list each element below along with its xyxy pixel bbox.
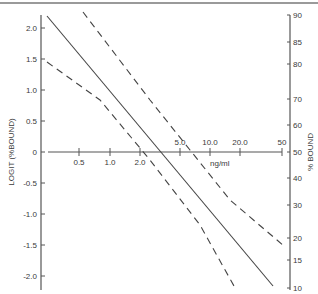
- series-lines: [47, 12, 284, 286]
- left-y-ticks: 2.01.51.00.50-0.5-1.0-1.5-2.0: [23, 24, 45, 281]
- x-tick-label: 20.0: [232, 138, 248, 147]
- y2-tick-label: 90: [293, 11, 302, 20]
- y-tick-label: -1.0: [23, 210, 37, 219]
- y2-tick-label: 60: [293, 121, 302, 130]
- x-tick-label: 0.5: [73, 158, 85, 167]
- regression-line: [47, 16, 273, 286]
- y2-tick-label: 50: [293, 148, 302, 157]
- y-tick-label: -2.0: [23, 272, 37, 281]
- y-tick-label: 0.5: [26, 117, 38, 126]
- y-tick-label: 1.5: [26, 55, 38, 64]
- x-tick-label: 50: [278, 138, 287, 147]
- logit-chart: 2.01.51.00.50-0.5-1.0-1.5-2.0 9085807060…: [0, 0, 318, 294]
- y2-tick-label: 15: [293, 256, 302, 265]
- confidence-limit-line: [47, 62, 234, 286]
- y-tick-label: -0.5: [23, 179, 37, 188]
- y2-tick-label: 30: [293, 201, 302, 210]
- y-tick-label: -1.5: [23, 241, 37, 250]
- x-tick-label: 2.0: [134, 158, 146, 167]
- x-tick-label: 1.0: [104, 158, 116, 167]
- y2-tick-label: 85: [293, 38, 302, 47]
- y-tick-label: 2.0: [26, 24, 38, 33]
- y2-tick-label: 80: [293, 60, 302, 69]
- y2-tick-label: 40: [293, 174, 302, 183]
- x-tick-label: 10.0: [202, 138, 218, 147]
- y2-tick-label: 10: [293, 284, 302, 293]
- y-tick-label: 0: [33, 148, 38, 157]
- left-y-axis-label: LOGIT (%BOUND): [7, 118, 16, 186]
- y2-tick-label: 20: [293, 234, 302, 243]
- chart-svg: 2.01.51.00.50-0.5-1.0-1.5-2.0 9085807060…: [0, 0, 318, 294]
- y2-tick-label: 70: [293, 95, 302, 104]
- x-tick-label: 5.0: [174, 138, 186, 147]
- x-axis-label: ng/ml: [210, 159, 230, 168]
- confidence-limit-line: [83, 12, 284, 246]
- right-y-ticks: 9085807060504030201510: [287, 11, 302, 293]
- right-y-axis-label: % BOUND: [306, 133, 315, 171]
- y-tick-label: 1.0: [26, 86, 38, 95]
